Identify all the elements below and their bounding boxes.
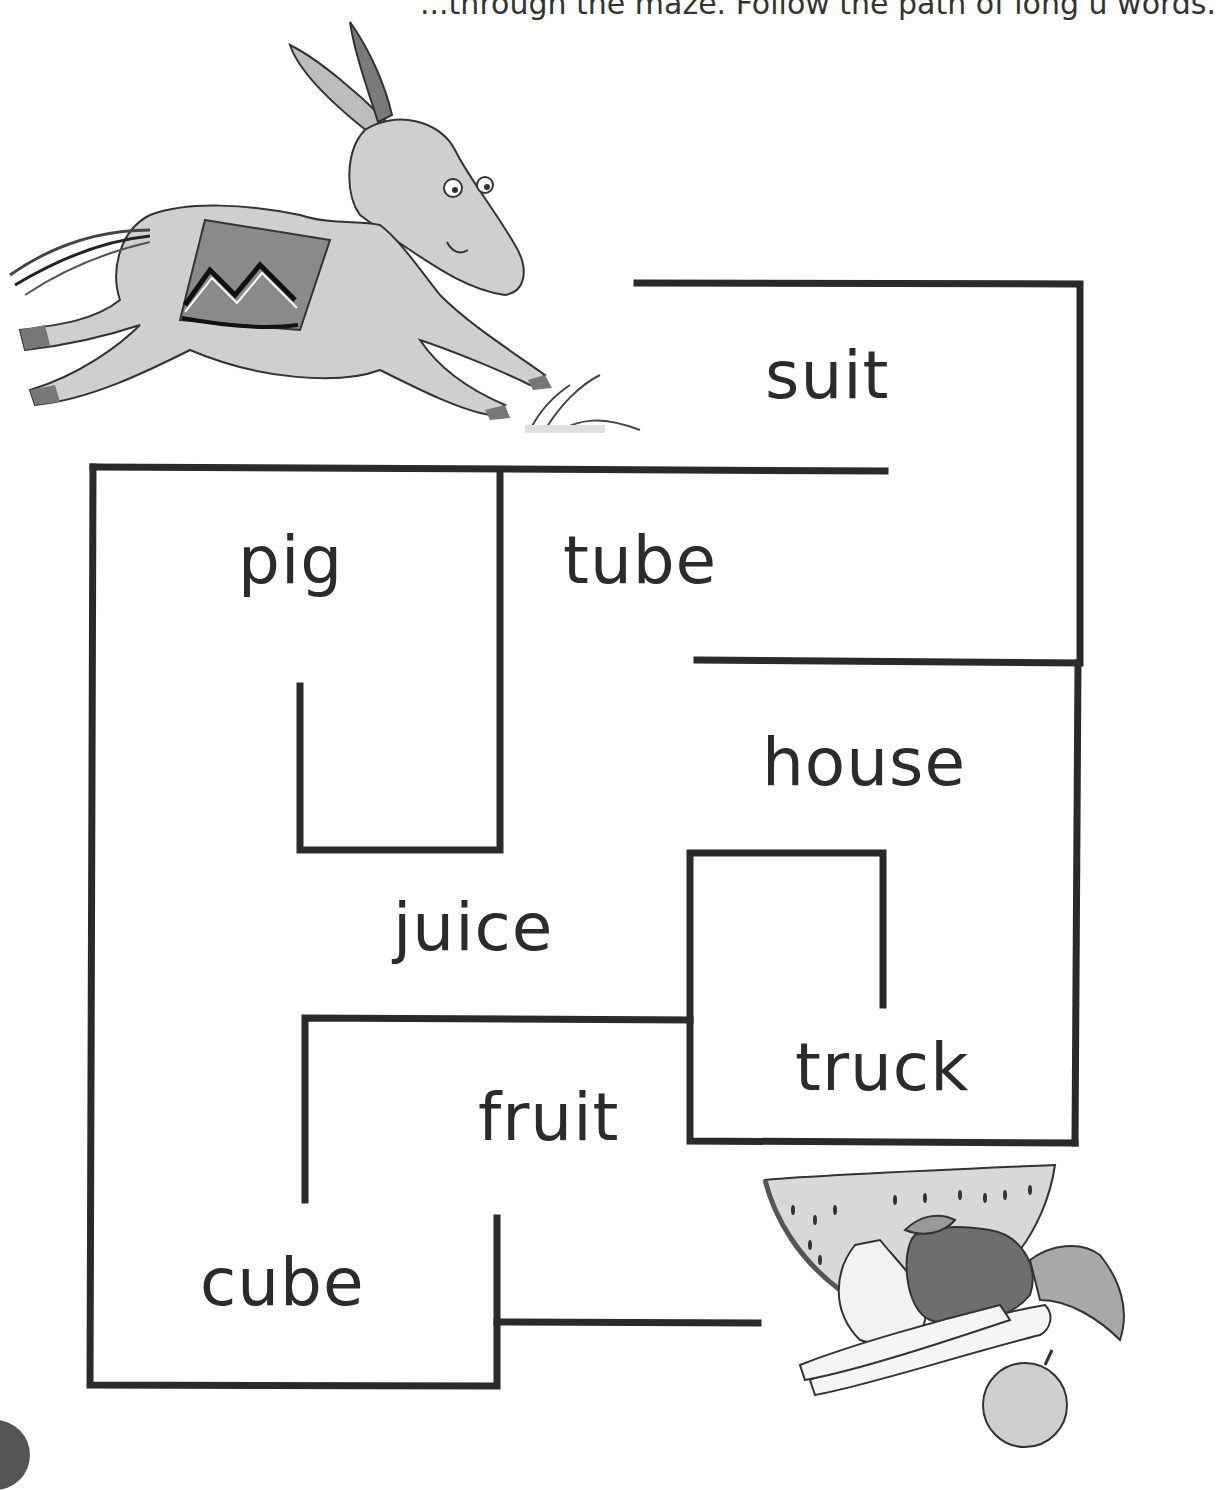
maze-word-house[interactable]: house (762, 730, 966, 796)
maze-word-cube[interactable]: cube (200, 1250, 365, 1316)
maze-word-suit[interactable]: suit (765, 343, 889, 409)
maze-word-tube[interactable]: tube (563, 528, 717, 594)
maze-word-pig[interactable]: pig (238, 528, 343, 594)
donkey-illustration (10, 22, 640, 433)
maze-word-fruit[interactable]: fruit (478, 1085, 619, 1151)
maze-word-juice[interactable]: juice (393, 895, 553, 961)
maze-word-truck[interactable]: truck (795, 1035, 969, 1101)
fruit-basket-illustration (765, 1165, 1124, 1447)
